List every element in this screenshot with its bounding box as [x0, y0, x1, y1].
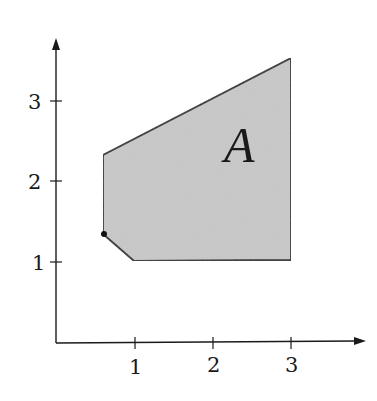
y-tick-label-3: 3: [28, 90, 41, 114]
y-tick-label-1: 1: [32, 251, 45, 275]
y-axis: 3 2 1: [28, 38, 62, 343]
y-tick-label-2: 2: [28, 170, 41, 194]
x-axis-arrow-icon: [354, 337, 366, 345]
x-tick-label-3: 3: [285, 353, 298, 377]
y-axis-arrow-icon: [52, 38, 60, 50]
region-a: [103, 58, 291, 261]
region-label-a: A: [221, 117, 255, 173]
x-tick-label-2: 2: [207, 353, 220, 377]
diagram: 3 2 1 1 2 3 A: [0, 0, 377, 401]
x-tick-label-1: 1: [129, 355, 142, 379]
marked-point: [101, 231, 107, 237]
x-axis: 1 2 3: [56, 337, 366, 379]
